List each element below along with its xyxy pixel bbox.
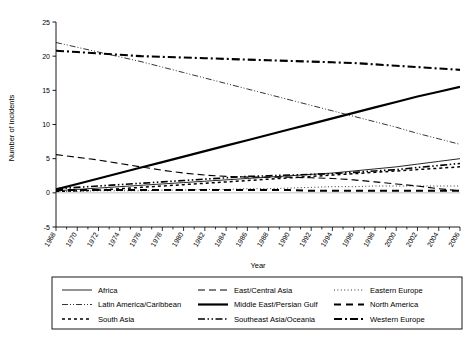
y-tick-label: 20 [42, 53, 50, 60]
legend-label: Eastern Europe [370, 286, 423, 295]
y-tick-label: 0 [46, 189, 50, 196]
y-tick-label: 15 [42, 87, 50, 94]
legend-label: Middle East/Persian Gulf [234, 300, 318, 309]
legend-label: North America [370, 300, 419, 309]
chart-legend: AfricaEast/Central AsiaEastern EuropeLat… [52, 277, 462, 329]
chart-figure: -50510152025 196819701972197419761978198… [0, 0, 473, 339]
y-tick-label: 25 [42, 19, 50, 26]
x-axis-title: Year [250, 261, 266, 270]
legend-label: Latin America/Caribbean [98, 300, 181, 309]
legend-label: East/Central Asia [234, 286, 293, 295]
legend-label: Africa [98, 286, 118, 295]
legend-label: South Asia [98, 315, 135, 324]
y-tick-label: -5 [44, 224, 50, 231]
y-tick-label: 10 [42, 121, 50, 128]
legend-label: Western Europe [370, 315, 425, 324]
legend-label: Southeast Asia/Oceania [234, 315, 316, 324]
line-chart: -50510152025 196819701972197419761978198… [0, 0, 473, 339]
y-tick-label: 5 [46, 155, 50, 162]
y-axis-title: Number of incidents [7, 94, 16, 161]
